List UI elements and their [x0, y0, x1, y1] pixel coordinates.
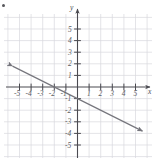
y-axis-label: y	[70, 4, 73, 12]
y-tick-label--5: -5	[65, 142, 71, 150]
x-tick-label-1: 1	[87, 90, 91, 98]
y-tick-label--2: -2	[65, 107, 71, 115]
y-tick-label--1: -1	[65, 95, 71, 103]
y-tick-label-4: 4	[68, 37, 72, 45]
y-tick-label-2: 2	[68, 60, 72, 68]
x-tick-label-2: 2	[99, 90, 103, 98]
y-tick-label--3: -3	[65, 118, 71, 126]
x-tick-label-3: 3	[110, 90, 114, 98]
x-tick-label-4: 4	[122, 90, 126, 98]
y-tick-label--4: -4	[65, 130, 71, 138]
coordinate-graph-figure: -5 -4 -3 -2 -1 1 2 3 4 5 5 4 3 2 1 -1 -2…	[0, 0, 156, 163]
x-tick-label--3: -3	[37, 90, 43, 98]
x-tick-label-5: 5	[133, 90, 137, 98]
x-axis-label: x	[148, 88, 151, 96]
coordinate-plane-svg	[0, 0, 156, 163]
x-tick-label--4: -4	[26, 90, 32, 98]
y-tick-label-1: 1	[68, 72, 72, 80]
y-tick-label-5: 5	[68, 26, 72, 34]
y-tick-label-3: 3	[68, 49, 72, 57]
x-tick-label--5: -5	[14, 90, 20, 98]
x-tick-label--2: -2	[49, 90, 55, 98]
